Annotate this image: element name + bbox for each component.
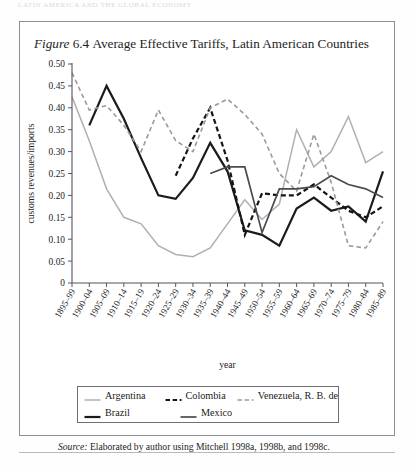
y-tick-label: 0.15 — [49, 213, 66, 223]
line-chart: 00.050.100.150.200.250.300.350.400.450.5… — [20, 58, 396, 388]
legend-item-colombia: Colombia — [165, 390, 237, 401]
legend-item-mexico: Mexico — [180, 407, 232, 418]
series-line-brazil — [89, 86, 383, 246]
brazil-swatch — [84, 408, 101, 418]
legend-label-colombia: Colombia — [186, 390, 226, 401]
legend-item-argentina: Argentina — [84, 390, 165, 401]
figure-title-text: Average Effective Tariffs, Latin America… — [92, 36, 368, 51]
mexico-swatch — [180, 408, 197, 418]
argentina-swatch — [84, 391, 101, 401]
legend-row-1: Argentina Colombia Venezuela, R. B. de — [78, 387, 338, 404]
figure-number: 6.4 — [73, 36, 89, 51]
page-bottom-rule — [19, 452, 395, 453]
y-tick-label: 0.45 — [49, 81, 66, 91]
colombia-swatch — [165, 391, 182, 401]
series-line-argentina — [72, 97, 383, 257]
figure-title: Figure 6.4 Average Effective Tariffs, La… — [34, 36, 384, 52]
source-text: Elaborated by author using Mitchell 1998… — [90, 441, 330, 452]
legend-label-argentina: Argentina — [105, 390, 146, 401]
y-tick-label: 0.25 — [49, 169, 66, 179]
venezuela-swatch — [237, 391, 254, 401]
y-axis-title: customs revenues/imports — [25, 123, 36, 223]
x-axis-title: year — [219, 359, 236, 370]
y-tick-label: 0 — [60, 278, 65, 288]
y-tick-label: 0.30 — [49, 147, 66, 157]
page-canvas: LATIN AMERICA AND THE GLOBAL ECONOMY Fig… — [0, 0, 414, 471]
source-prefix: Source: — [58, 441, 87, 452]
legend-item-venezuela: Venezuela, R. B. de — [237, 390, 338, 401]
figure-title-prefix: Figure — [34, 36, 69, 51]
y-tick-label: 0.10 — [49, 235, 66, 245]
legend-label-venezuela: Venezuela, R. B. de — [258, 390, 338, 401]
y-tick-label: 0.50 — [49, 59, 66, 69]
y-tick-label: 0.40 — [49, 103, 66, 113]
y-tick-label: 0.20 — [49, 191, 66, 201]
plot-area: 00.050.100.150.200.250.300.350.400.450.5… — [20, 58, 396, 388]
source-note: Source: Elaborated by author using Mitch… — [58, 441, 330, 452]
y-tick-label: 0.05 — [49, 257, 66, 267]
legend-row-2: Brazil Mexico — [78, 404, 338, 421]
legend-item-brazil: Brazil — [84, 407, 180, 418]
running-head: LATIN AMERICA AND THE GLOBAL ECONOMY — [18, 1, 396, 10]
legend-label-mexico: Mexico — [201, 407, 232, 418]
chart-legend: Argentina Colombia Venezuela, R. B. de B… — [77, 386, 339, 423]
legend-label-brazil: Brazil — [105, 407, 130, 418]
y-tick-label: 0.35 — [49, 125, 66, 135]
figure-container: Figure 6.4 Average Effective Tariffs, La… — [19, 21, 395, 436]
